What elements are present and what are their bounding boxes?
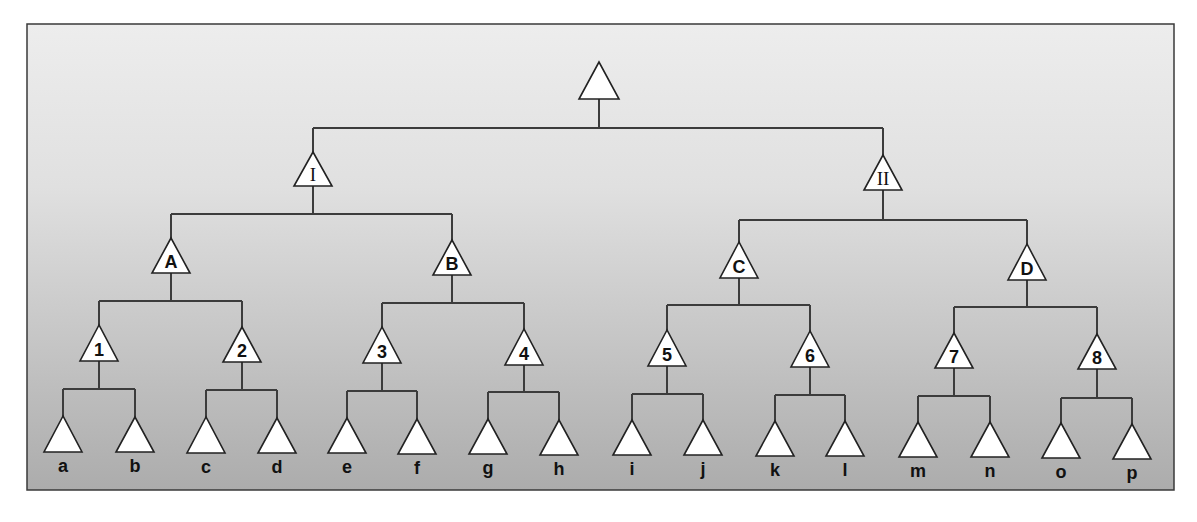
node-label: A [165, 252, 178, 272]
leaf-label: c [201, 457, 211, 477]
leaf-label: h [554, 459, 565, 479]
leaf-label: b [130, 456, 141, 476]
node-label: C [733, 257, 746, 277]
leaf-label: l [842, 460, 847, 480]
node-label: 6 [805, 346, 815, 366]
leaf-label: g [483, 458, 494, 478]
node-label: B [446, 254, 459, 274]
leaf-label: n [985, 461, 996, 481]
tree-diagram: IIIABCD12345678abcdefghijklmnop [0, 0, 1197, 522]
node-label: I [310, 164, 316, 185]
leaf-label: o [1056, 462, 1067, 482]
leaf-label: m [910, 461, 926, 481]
leaf-label: f [414, 458, 421, 478]
leaf-label: e [342, 457, 352, 477]
leaf-label: i [629, 459, 634, 479]
leaf-label: a [58, 456, 69, 476]
node-label: 1 [94, 340, 104, 360]
node-label: 4 [519, 344, 529, 364]
leaf-label: j [699, 459, 705, 479]
leaf-label: p [1127, 463, 1138, 483]
node-label: 7 [949, 347, 959, 367]
node-label: II [877, 168, 890, 189]
node-label: 8 [1092, 348, 1102, 368]
node-label: 2 [237, 341, 247, 361]
node-label: 3 [377, 342, 387, 362]
leaf-label: k [770, 460, 781, 480]
leaf-label: d [272, 457, 283, 477]
node-label: 5 [662, 345, 672, 365]
node-label: D [1021, 259, 1034, 279]
